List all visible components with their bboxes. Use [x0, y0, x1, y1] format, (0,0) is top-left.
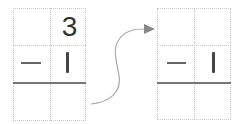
grid-center-divider	[194, 8, 195, 120]
subtrahend-digit-one	[212, 52, 215, 73]
right-subtraction-grid	[157, 8, 231, 120]
grid-right-border	[230, 8, 231, 120]
minus-sign	[167, 62, 186, 64]
grid-row-divider	[157, 45, 231, 46]
answer-line	[157, 82, 231, 84]
grid-left-border	[157, 8, 158, 120]
